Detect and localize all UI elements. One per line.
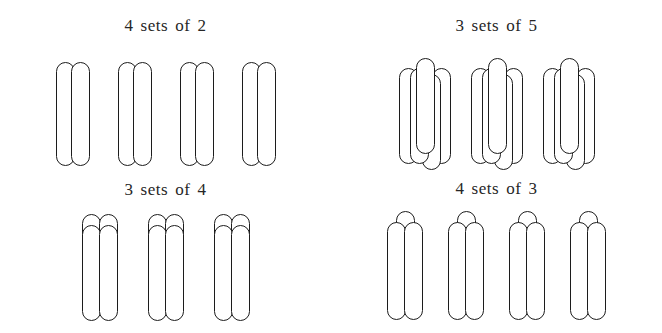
rod-bundle — [56, 62, 90, 166]
rod-bundle — [543, 58, 595, 170]
panel-4-sets-of-2: 4 sets of 2 — [0, 0, 331, 166]
rod — [587, 222, 606, 320]
bundle-row — [0, 62, 331, 166]
rod-bundle — [214, 214, 250, 324]
rod — [165, 225, 184, 321]
bundle-row — [331, 58, 662, 170]
panel-caption: 3 sets of 4 — [0, 180, 331, 200]
rod — [99, 225, 118, 321]
rod — [404, 222, 423, 320]
rod-bundle — [180, 62, 214, 166]
panel-3-sets-of-5: 3 sets of 5 — [331, 0, 662, 166]
rod-bundle — [118, 62, 152, 166]
rod-bundle — [82, 214, 118, 324]
rod-bundle — [242, 62, 276, 166]
bundle-row — [331, 211, 662, 323]
rod — [560, 58, 579, 154]
rod-bundle — [509, 211, 545, 323]
panel-4-sets-of-3: 4 sets of 3 — [331, 167, 662, 333]
rod-bundle — [399, 58, 451, 170]
rod — [133, 62, 152, 166]
panel-caption: 3 sets of 5 — [331, 16, 662, 36]
rod — [488, 58, 507, 154]
panel-caption: 4 sets of 2 — [0, 16, 331, 36]
rod-bundle — [448, 211, 484, 323]
rod-bundle — [471, 58, 523, 170]
rod — [82, 225, 101, 321]
rod — [71, 62, 90, 166]
rod — [526, 222, 545, 320]
rod — [214, 225, 233, 321]
panel-caption: 4 sets of 3 — [331, 179, 662, 199]
rod-bundle — [387, 211, 423, 323]
bundle-row — [0, 214, 331, 324]
rod-bundle — [148, 214, 184, 324]
rod — [195, 62, 214, 166]
rod — [148, 225, 167, 321]
rod — [257, 62, 276, 166]
panel-3-sets-of-4: 3 sets of 4 — [0, 166, 331, 332]
rod — [465, 222, 484, 320]
rod — [231, 225, 250, 321]
rod — [416, 58, 435, 154]
rod-bundle — [570, 211, 606, 323]
